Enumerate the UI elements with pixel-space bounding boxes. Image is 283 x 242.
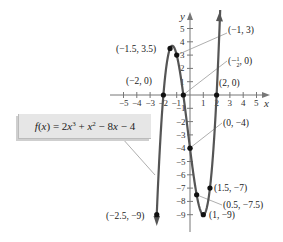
function-formula-box: f(x) = 2x3 + x2 − 8x − 4 — [18, 114, 151, 139]
point-label: (1, −9) — [209, 210, 235, 221]
x-axis-label: x — [263, 97, 269, 109]
y-tick-label: −9 — [176, 210, 186, 220]
point-label: (0, −4) — [223, 118, 249, 129]
label-part: (− — [228, 56, 237, 67]
y-axis-label: y — [179, 10, 185, 22]
data-point — [194, 192, 199, 197]
data-point — [214, 92, 219, 97]
formula-part: x — [42, 120, 47, 132]
point-label: (−1.5, 3.5) — [116, 44, 156, 55]
point-label: (2, 0) — [219, 78, 240, 89]
formula-part: + — [76, 120, 88, 132]
data-point — [181, 92, 186, 97]
formula-part: f — [35, 120, 38, 132]
data-point — [161, 92, 166, 97]
y-tick-label: −4 — [176, 143, 186, 153]
data-point — [154, 212, 159, 217]
formula-text: f(x) = 2x3 + x2 − 8x − 4 — [35, 120, 135, 132]
formula-part: − 4 — [118, 120, 135, 132]
x-tick-label: 3 — [228, 98, 233, 108]
data-point — [174, 53, 179, 58]
point-label: (−1, 3) — [228, 25, 254, 36]
y-tick-label: −8 — [176, 196, 186, 206]
data-point — [207, 186, 212, 191]
y-tick-label: −6 — [176, 170, 186, 180]
point-label: (−12, 0) — [228, 56, 252, 68]
point-label: (−2.5, −9) — [106, 211, 144, 222]
curve-arrow-up-icon — [216, 12, 223, 22]
y-tick-label: 4 — [180, 37, 185, 47]
function-curve-drawn — [154, 10, 224, 226]
x-tick-label: −5 — [119, 98, 129, 108]
data-point — [167, 46, 172, 51]
x-tick-label: −3 — [146, 98, 156, 108]
x-tick-label: −4 — [132, 98, 142, 108]
formula-part: = 2 — [50, 120, 67, 132]
label-part: , 0) — [240, 56, 253, 67]
formula-part: − 8 — [96, 120, 113, 132]
x-tick-label: 5 — [254, 98, 259, 108]
x-tick-label: 4 — [241, 98, 246, 108]
y-tick-label: 5 — [180, 24, 185, 34]
x-tick-label: 1 — [201, 98, 206, 108]
y-tick-label: −5 — [176, 157, 186, 167]
data-point — [187, 146, 192, 151]
data-point — [201, 212, 206, 217]
y-tick-label: −2 — [176, 117, 186, 127]
point-label: (−2, 0) — [126, 76, 152, 87]
point-label: (1.5, −7) — [214, 183, 247, 194]
y-tick-label: −7 — [176, 183, 186, 193]
curve-arrow-down-icon — [154, 216, 161, 226]
y-tick-label: −3 — [176, 130, 186, 140]
y-axis: 5 4 3 2 1 −1 −2 −3 −4 −5 −6 −7 −8 −9 y — [176, 10, 193, 232]
